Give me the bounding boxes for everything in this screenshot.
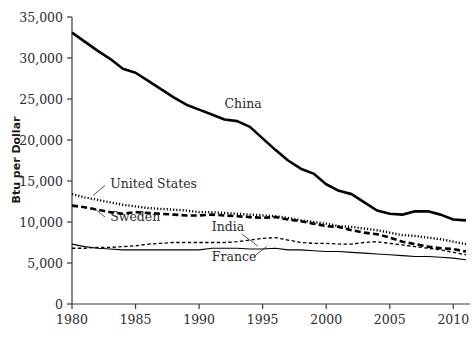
x-tick-label: 1995 [247, 312, 279, 327]
series-line-china [72, 33, 466, 221]
x-tick-label: 1980 [56, 312, 88, 327]
x-tick-label: 1985 [120, 312, 152, 327]
series-label-sweden: Sweden [110, 209, 160, 224]
leader-line-united-states [93, 185, 105, 195]
x-axis: 1980198519901995200020052010 [56, 304, 470, 327]
y-tick-label: 25,000 [19, 92, 63, 107]
series-line-india [72, 238, 466, 255]
x-tick-label: 1990 [183, 312, 215, 327]
y-axis-title: Btu per Dollar [10, 116, 23, 204]
y-tick-label: 0 [55, 297, 63, 312]
series-annotations: ChinaUnited StatesSwedenIndiaFrance [93, 96, 267, 264]
series-label-france: France [212, 249, 257, 264]
series-label-united-states: United States [110, 176, 197, 191]
y-tick-label: 35,000 [19, 10, 63, 25]
series-lines [72, 33, 466, 260]
line-chart: 05,00010,00015,00020,00025,00030,00035,0… [0, 0, 475, 341]
y-axis: 05,00010,00015,00020,00025,00030,00035,0… [19, 10, 72, 312]
x-tick-label: 2005 [374, 312, 406, 327]
x-tick-label: 2000 [310, 312, 342, 327]
leader-line-india [242, 234, 258, 246]
x-tick-label: 2010 [437, 312, 469, 327]
y-tick-label: 30,000 [19, 51, 63, 66]
y-tick-label: 20,000 [19, 133, 63, 148]
y-tick-label: 5,000 [27, 256, 63, 271]
y-tick-label: 15,000 [19, 174, 63, 189]
chart-container: 05,00010,00015,00020,00025,00030,00035,0… [0, 0, 475, 341]
series-label-china: China [225, 96, 263, 111]
y-tick-label: 10,000 [19, 215, 63, 230]
series-label-india: India [212, 219, 245, 234]
